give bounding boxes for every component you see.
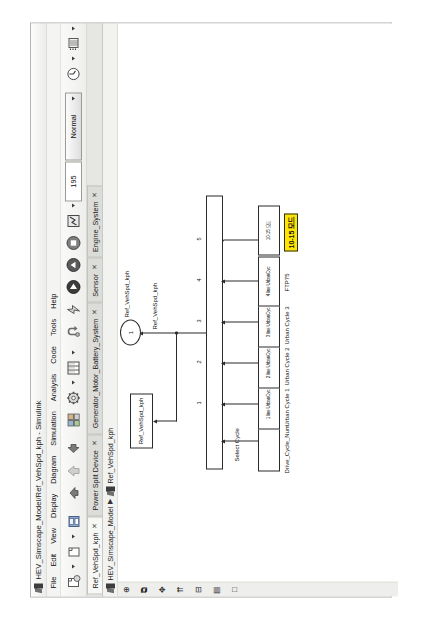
wire-switch-output-horizontal [176,332,177,421]
tab-label: Ref_VehSpd_kph [91,532,100,588]
editor-body: ⊕ ⧉ ✥ ⇈ ⊟ ▤ □ Select Cycle 1 2 3 4 5 [118,23,398,596]
simulink-logo-icon [34,583,43,592]
block-mode-cycle[interactable]: 10-15 모드 [258,205,280,255]
model-explorer-button[interactable] [63,357,84,378]
stepping-dropdown-caret[interactable] [64,202,83,209]
outport-1[interactable]: 1 [120,319,141,345]
stop-button[interactable] [63,232,84,253]
new-model-dropdown-caret[interactable] [64,563,83,570]
menu-item-tools[interactable]: Tools [48,313,59,340]
save-model-button[interactable] [63,511,84,532]
simulation-stepping-options-button[interactable] [63,210,84,231]
annotation-10-15-mode[interactable]: 10-15 모드 [284,213,298,251]
tab-close-icon[interactable]: ✕ [91,191,99,197]
menu-item-code[interactable]: Code [48,341,59,369]
subsystem-icon [106,486,115,495]
arrow-into-goto [153,420,157,424]
breadcrumb: HEV_Simscape_Model ▶ Ref_VehSpd_kph [103,23,118,596]
open-model-button[interactable] [63,541,84,562]
pan-icon[interactable]: ✥ [157,584,168,595]
menu-item-help[interactable]: Help [48,288,59,313]
zoom-fit-icon[interactable]: ⧉ [139,584,150,595]
menu-item-display[interactable]: Display [48,488,59,522]
model-configuration-parameters-button[interactable] [63,387,84,408]
wire-to-goto-block [156,420,177,421]
navigate-back-button[interactable] [63,482,84,503]
zoom-out-icon[interactable]: ⊟ [193,584,204,595]
fast-restart-button[interactable] [63,298,84,319]
new-model-button[interactable] [63,571,84,592]
tab-power-split-device[interactable]: Power Split Device ✕ [87,434,102,516]
legend-dropdown-caret[interactable] [64,25,83,32]
navigate-forward-button[interactable] [63,438,84,459]
zoom-in-icon[interactable]: ⇈ [175,584,186,595]
model-browser-toggle-icon[interactable]: ⊕ [121,584,132,595]
simulation-mode-select[interactable]: Normal [65,92,82,160]
wire-to-outport [142,332,176,333]
arrow-urban-cycle-3 [221,321,225,325]
tab-label: Engine_System [91,201,100,251]
block-label-urban-cycle-1: Urban Cycle 1 [284,388,290,426]
breadcrumb-root[interactable]: HEV_Simscape_Model [106,506,115,580]
simulation-stop-time-input[interactable]: 195 [65,161,82,201]
block-ftp75[interactable]: 4 line UrbanCyc [258,256,280,306]
block-label-urban-cycle-2: Urban Cycle 2 [284,347,290,385]
menu-item-file[interactable]: File [48,571,59,593]
menu-item-view[interactable]: View [48,522,59,548]
menu-item-simulation[interactable]: Simulation [48,406,59,451]
breadcrumb-current[interactable]: Ref_VehSpd_kph [106,427,115,483]
explore-icon[interactable]: ▤ [211,584,222,595]
hide-icon[interactable]: □ [229,584,240,595]
step-forward-button[interactable] [63,254,84,275]
simulation-data-inspector-button[interactable] [63,63,84,84]
goto-block-label: Ref_VehSpd_kph [138,397,144,444]
menu-item-diagram[interactable]: Diagram [48,450,59,488]
block-label-ftp75: FTP75 [284,273,290,291]
menu-item-analysis[interactable]: Analysis [48,368,59,406]
model-explorer-dropdown-caret[interactable] [64,349,83,356]
wire-urban-cycle-3 [222,321,258,322]
tab-close-icon[interactable]: ✕ [91,308,99,314]
menu-bar: File Edit View Display Diagram Simulatio… [47,23,61,596]
navigate-up-button[interactable] [63,460,84,481]
chevron-down-icon [72,96,75,100]
toolbar-group-file [61,509,86,594]
model-canvas[interactable]: Select Cycle 1 2 3 4 5 Drive_Cycle_Num 1… [118,23,398,581]
tab-close-icon[interactable]: ✕ [91,440,99,446]
tab-engine-system[interactable]: Engine_System ✕ [87,185,102,257]
window-title: HEV_Simscape_Model/Ref_VehSpd_kph - Simu… [34,400,43,579]
block-goto-ref-vehspd-kph[interactable]: Ref_VehSpd_kph [130,393,153,448]
toolbar: 195 Normal [61,23,87,596]
tab-close-icon[interactable]: ✕ [91,263,99,269]
tab-ref-vehspd-kph[interactable]: Ref_VehSpd_kph ✕ [87,516,102,594]
simulation-mode-value: Normal [69,114,78,138]
legend-button[interactable] [63,33,84,54]
title-bar: HEV_Simscape_Model/Ref_VehSpd_kph - Simu… [31,23,47,596]
run-button[interactable] [63,276,84,297]
configuration-dropdown-caret[interactable] [64,379,83,386]
tab-label: Power Split Device [91,450,100,510]
menu-item-edit[interactable]: Edit [48,548,59,571]
block-inner-text: 2 line UrbanCyc [267,348,272,378]
block-label-urban-cycle-3: Urban Cycle 3 [284,306,290,344]
switch-port-2: 2 [196,360,202,363]
editor-tab-strip: Ref_VehSpd_kph ✕ Power Split Device ✕ Ge… [87,23,103,596]
toolbar-group-navigation [61,436,86,505]
block-inner-text: 4 line UrbanCyc [267,266,272,296]
multiport-switch[interactable] [206,195,223,469]
tab-label: Generator_Motor_Battery_System [91,318,100,427]
arrow-urban-cycle-1 [221,403,225,407]
tab-close-icon[interactable]: ✕ [91,522,99,528]
tab-generator-motor-battery-system[interactable]: Generator_Motor_Battery_System ✕ [87,302,102,433]
arrow-into-switch-control [221,440,225,444]
outport-label-ref-vehspd-kph: Ref_VehSpd_kph [124,270,130,317]
wire-ftp75 [222,280,258,281]
open-model-dropdown-caret[interactable] [64,533,83,540]
wire-switch-output-vertical [176,332,206,333]
tab-sensor[interactable]: Sensor ✕ [87,257,102,302]
update-diagram-button[interactable] [63,320,84,341]
library-browser-button[interactable] [63,409,84,430]
block-inner-text: 1 line UrbanCyc [267,389,272,419]
data-inspector-dropdown-caret[interactable] [64,55,83,62]
switch-port-4: 4 [196,278,202,281]
